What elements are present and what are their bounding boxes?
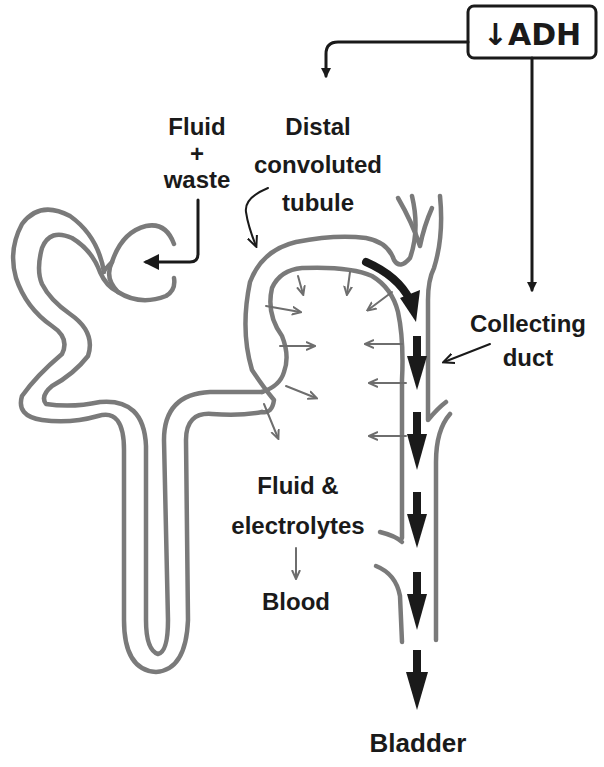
- fluid-waste-label: Fluid + waste: [163, 113, 231, 193]
- svg-text:waste: waste: [163, 166, 231, 193]
- nephron-diagram: ↓ADH Fluid + waste Distal convoluted tub…: [0, 0, 604, 767]
- svg-text:+: +: [190, 140, 204, 167]
- fluid-electrolytes-label: Fluid & electrolytes: [231, 472, 364, 539]
- svg-text:Collecting: Collecting: [470, 310, 586, 337]
- svg-text:Distal: Distal: [285, 113, 350, 140]
- collecting-duct-pointer: [444, 344, 490, 362]
- distal-tubule-pointer: [246, 188, 268, 246]
- urine-flow-arrows: [366, 262, 428, 710]
- adh-to-distal-arrow: [326, 42, 468, 76]
- fluid-waste-arrow: [146, 200, 198, 262]
- distal-tubule-label: Distal convoluted tubule: [254, 113, 382, 216]
- svg-text:electrolytes: electrolytes: [231, 512, 364, 539]
- svg-text:Fluid &: Fluid &: [257, 472, 338, 499]
- bladder-label: Bladder: [370, 728, 467, 758]
- adh-box: ↓ADH: [468, 6, 596, 58]
- svg-text:convoluted: convoluted: [254, 151, 382, 178]
- blood-label: Blood: [262, 588, 330, 615]
- svg-text:duct: duct: [503, 344, 554, 371]
- svg-text:tubule: tubule: [282, 189, 354, 216]
- adh-label: ↓ADH: [483, 17, 581, 52]
- collecting-duct-label: Collecting duct: [470, 310, 586, 371]
- svg-text:Fluid: Fluid: [168, 113, 225, 140]
